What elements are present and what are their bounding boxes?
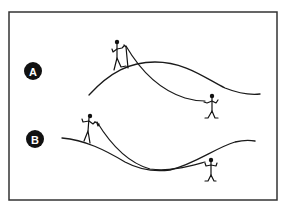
pole	[95, 122, 99, 126]
stick-figure-climber-b	[82, 114, 99, 143]
figure-legs	[205, 175, 216, 181]
badge-label-b: B	[31, 134, 39, 146]
figure-body	[88, 118, 89, 131]
stick-figure-climber-a	[112, 40, 128, 70]
figure-legs	[84, 131, 90, 143]
valley-ground-b	[62, 138, 255, 171]
figure-arms	[112, 46, 124, 52]
figure-legs	[205, 111, 218, 118]
rope-b	[97, 122, 205, 170]
diagram-frame	[9, 12, 277, 200]
figure-arms	[204, 100, 218, 103]
panel-a: A	[24, 40, 260, 118]
rope-diagram: A B	[0, 0, 285, 205]
label-badge-a: A	[24, 62, 42, 80]
figure-head	[88, 114, 92, 118]
panel-b: B	[26, 114, 255, 181]
stick-figure-belayer-b	[205, 158, 217, 181]
rope-a	[126, 46, 205, 101]
label-badge-b: B	[26, 130, 44, 148]
stick-figure-belayer-a	[204, 94, 218, 118]
badge-label-a: A	[29, 66, 37, 78]
